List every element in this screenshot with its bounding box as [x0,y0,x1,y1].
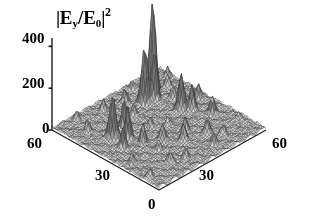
title-e2-subscript: 0 [96,17,102,29]
axis-origin-tick-0: 0 [148,197,156,212]
x-axis-tick-60: 60 [272,136,287,151]
page-title: |Ey/E0|2 [56,8,111,27]
surface-plot-figure: |Ey/E0|2 400 200 0 60 30 0 30 60 [0,0,309,224]
z-axis-tick-200: 200 [22,76,45,91]
z-axis-tick-0: 0 [42,121,50,136]
title-exponent: 2 [105,5,111,19]
title-e2-main: E [83,7,96,28]
surface-mesh-canvas [0,0,309,224]
y-axis-tick-60: 60 [27,136,42,151]
y-axis-tick-30: 30 [95,168,110,183]
x-axis-tick-30: 30 [199,168,214,183]
title-e-subscript: y [72,17,78,29]
title-e-main: E [60,7,73,28]
z-axis-tick-400: 400 [22,31,45,46]
